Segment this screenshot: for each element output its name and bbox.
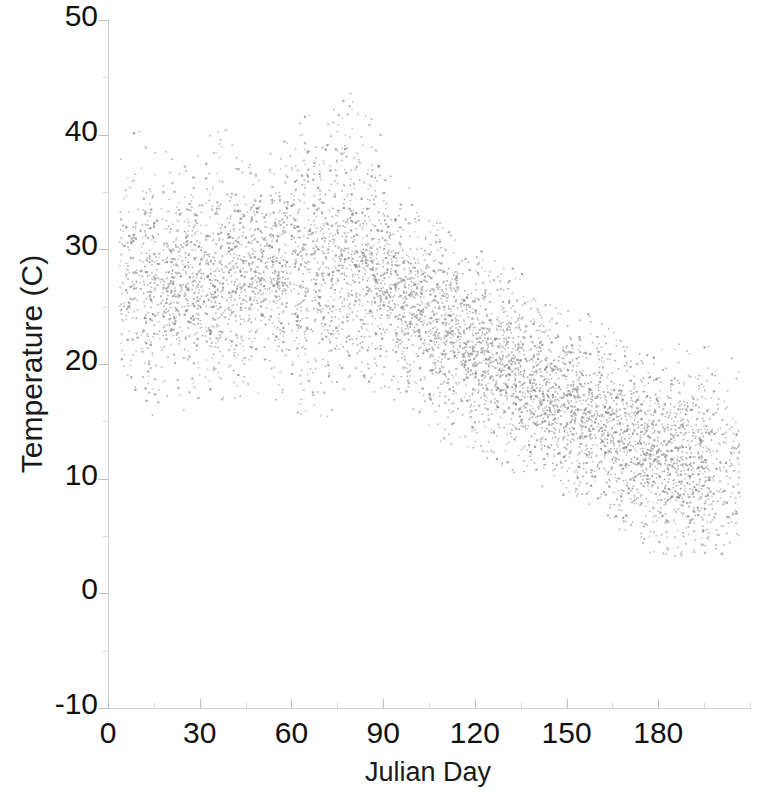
x-minor-tick-mark bbox=[612, 703, 613, 709]
x-tick-mark bbox=[658, 699, 659, 709]
y-tick-label: 10 bbox=[0, 458, 98, 492]
y-tick-mark bbox=[99, 20, 109, 21]
x-axis-title: Julian Day bbox=[108, 757, 748, 788]
y-tick-label: 40 bbox=[0, 114, 98, 148]
x-tick-mark bbox=[291, 699, 292, 709]
x-minor-tick-mark bbox=[750, 703, 751, 709]
scatter-point-cloud bbox=[0, 0, 760, 807]
x-tick-mark bbox=[200, 699, 201, 709]
y-tick-label: 0 bbox=[0, 572, 98, 606]
y-tick-label: 20 bbox=[0, 343, 98, 377]
y-minor-tick-mark bbox=[103, 77, 109, 78]
x-minor-tick-mark bbox=[704, 703, 705, 709]
x-minor-tick-mark bbox=[246, 703, 247, 709]
y-tick-mark bbox=[99, 593, 109, 594]
x-tick-mark bbox=[108, 699, 109, 709]
y-minor-tick-mark bbox=[103, 536, 109, 537]
x-tick-mark bbox=[383, 699, 384, 709]
x-tick-mark bbox=[475, 699, 476, 709]
y-minor-tick-mark bbox=[103, 651, 109, 652]
y-tick-mark bbox=[99, 479, 109, 480]
y-tick-label: 30 bbox=[0, 228, 98, 262]
y-minor-tick-mark bbox=[103, 421, 109, 422]
x-minor-tick-mark bbox=[521, 703, 522, 709]
x-tick-label: 180 bbox=[598, 716, 718, 750]
y-tick-mark bbox=[99, 135, 109, 136]
x-minor-tick-mark bbox=[429, 703, 430, 709]
y-tick-mark bbox=[99, 249, 109, 250]
y-minor-tick-mark bbox=[103, 192, 109, 193]
y-tick-label: 50 bbox=[0, 0, 98, 33]
temperature-vs-julian-day-chart: Temperature (C) Julian Day -100102030405… bbox=[0, 0, 760, 807]
x-tick-mark bbox=[567, 699, 568, 709]
y-tick-mark bbox=[99, 364, 109, 365]
x-minor-tick-mark bbox=[337, 703, 338, 709]
y-minor-tick-mark bbox=[103, 307, 109, 308]
x-minor-tick-mark bbox=[154, 703, 155, 709]
